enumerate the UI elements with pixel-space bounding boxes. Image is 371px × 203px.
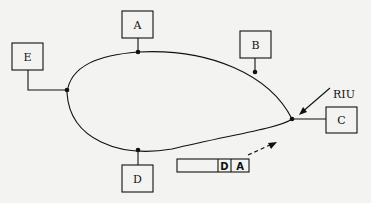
packet-arrowhead	[268, 142, 277, 149]
node-a: A	[122, 11, 153, 54]
node-d: D	[122, 148, 153, 192]
packet: D A	[177, 142, 277, 172]
packet-field-a: A	[236, 161, 244, 172]
node-b: B	[240, 31, 271, 74]
svg-text:E: E	[23, 51, 31, 64]
svg-text:B: B	[251, 39, 259, 52]
packet-direction-arrow	[248, 145, 270, 155]
svg-text:A: A	[133, 19, 143, 32]
ring-loop	[67, 52, 292, 152]
svg-text:D: D	[133, 173, 142, 186]
node-e: E	[12, 43, 69, 92]
packet-field-d: D	[220, 161, 228, 172]
svg-text:RIU: RIU	[333, 88, 355, 101]
ring-diagram: A B C D E RIU D A	[0, 0, 371, 203]
node-c: C	[290, 107, 357, 133]
svg-text:C: C	[337, 114, 345, 127]
